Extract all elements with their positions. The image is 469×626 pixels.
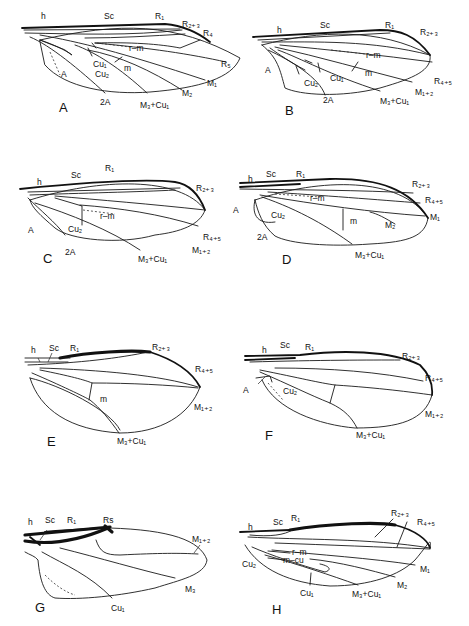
- label-h-f: h: [262, 345, 267, 355]
- label-m-d: m: [350, 216, 357, 226]
- costa-heavy-h: [290, 523, 395, 530]
- sc-vein-f: [245, 358, 295, 360]
- label-m2-a: M₂: [182, 88, 192, 98]
- label-r1-d: R₁: [296, 169, 305, 179]
- label-cu2-h: Cu₂: [242, 559, 256, 569]
- label-h-b: h: [277, 25, 282, 35]
- label-a-a: A: [61, 69, 67, 79]
- label-r1-b: R₁: [385, 20, 394, 30]
- m12-vein-g: [96, 540, 198, 555]
- r23-vein-c: [30, 190, 175, 195]
- label-sc-f: Sc: [280, 340, 291, 350]
- label-h-c: h: [37, 177, 42, 187]
- label-m3-g: M₃: [185, 584, 196, 594]
- r23-vein-f: [250, 360, 400, 362]
- label-r1-c: R₁: [105, 163, 114, 173]
- label-m12-b: M₁₊₂: [415, 87, 433, 97]
- wing-panel-h: h Sc R₁ R₂₊₃ R₄₊₅ r–m m–cu Cu₂ Cu₁ M₁ M₂…: [240, 508, 435, 617]
- panel-letter-e: E: [47, 434, 56, 449]
- label-r23-c: R₂₊₃: [196, 183, 214, 193]
- label-h-g: h: [28, 517, 33, 527]
- label-mcu-h: m–cu: [283, 555, 304, 565]
- label-rm-a: r–m: [129, 43, 144, 53]
- label-leaders-e: [38, 353, 52, 362]
- label-sc-d: Sc: [266, 169, 277, 179]
- label-m3cu1-a: M₃+Cu₁: [140, 100, 169, 110]
- panel-letter-c: C: [43, 251, 52, 266]
- label-h-d: h: [248, 174, 253, 184]
- label-m1-h: M₁: [420, 564, 430, 574]
- label-r23-e: R₂₊₃: [152, 342, 170, 352]
- label-m12-e: M₁₊₂: [194, 402, 212, 412]
- m3cu1-vein-d: [262, 197, 352, 244]
- label-cu2-c: Cu₂: [68, 224, 82, 234]
- label-cu1-h: Cu₁: [300, 588, 314, 598]
- label-rm-b: r–m: [366, 50, 381, 60]
- label-a-b: A: [265, 65, 271, 75]
- label-r1-e: R₁: [70, 343, 79, 353]
- label-m1-d: M₁: [430, 212, 440, 222]
- label-r5-a: R₅: [221, 59, 231, 69]
- label-rs-g: Rs: [103, 515, 113, 525]
- label-a-c: A: [28, 225, 34, 235]
- label-2a-b: 2A: [323, 95, 334, 105]
- wing-venation-figure: h Sc R₁ R₂₊₃ R₄ R₅ r–m m Cu₁ Cu₂ A 2A M₃…: [0, 0, 469, 626]
- r45-vein-e: [40, 368, 198, 387]
- label-cu1-a: Cu₁: [93, 59, 107, 69]
- r23-vein-a: [85, 34, 185, 38]
- r45-vein-c: [55, 196, 205, 210]
- panel-letter-h: H: [272, 602, 281, 617]
- label-m12-f: M₁₊₂: [425, 409, 443, 419]
- label-m2-h: M₂: [397, 580, 407, 590]
- label-m12-g: M₁₊₂: [192, 534, 210, 544]
- panel-letter-g: G: [35, 600, 45, 615]
- label-r45-c: R₄₊₅: [203, 232, 221, 242]
- m-crossvein-e: [89, 383, 92, 400]
- label-m2-d: M₂: [385, 220, 395, 230]
- label-r23-d: R₂₊₃: [412, 179, 430, 189]
- panel-letter-f: F: [265, 428, 273, 443]
- label-a-f: A: [243, 385, 249, 395]
- label-sc-c: Sc: [71, 170, 82, 180]
- r1-vein-a: [25, 30, 182, 34]
- label-cu1-b: Cu₁: [330, 73, 344, 83]
- panel-letter-a: A: [59, 100, 68, 115]
- r23-vein-h: [248, 537, 430, 548]
- label-sc-h: Sc: [273, 517, 284, 527]
- label-r23-f: R₂₊₃: [402, 351, 420, 361]
- label-a-d: A: [233, 205, 239, 215]
- label-rm-d: r–m: [310, 193, 325, 203]
- label-r4-a: R₄: [203, 28, 213, 38]
- label-m3cu1-f: M₃+Cu₁: [356, 430, 385, 440]
- r23-vein-d: [240, 189, 413, 193]
- label-2a-c: 2A: [65, 247, 76, 257]
- label-r23-a: R₂₊₃: [182, 19, 200, 29]
- wing-panel-e: h Sc R₁ R₂₊₃ R₄₊₅ m M₁₊₂ M₃+Cu₁ E: [25, 342, 213, 449]
- label-r23-b: R₂₊₃: [420, 27, 438, 37]
- r45-vein-f: [275, 368, 423, 381]
- label-r1-a: R₁: [155, 11, 164, 21]
- label-cu1-g: Cu₁: [111, 603, 125, 613]
- label-2a-a: 2A: [100, 97, 111, 107]
- label-r45-f: R₄₊₅: [425, 373, 443, 383]
- label-sc-a: Sc: [104, 11, 115, 21]
- label-rm-c: r–m: [100, 211, 115, 221]
- m-crossvein-f: [330, 385, 335, 403]
- wing-panel-f: h Sc R₁ R₂₊₃ R₄₊₅ A Cu₂ M₁₊₂ M₃+Cu₁ F: [243, 340, 443, 443]
- label-m1-a: M₁: [207, 78, 217, 88]
- wing-panel-b: h Sc R₁ R₂₊₃ r–m m A Cu₂ Cu₁ 2A M₃+Cu₁ M…: [253, 20, 452, 118]
- r1-vein-d: [240, 184, 300, 187]
- label-h-a: h: [41, 11, 46, 21]
- label-h-e: h: [31, 345, 36, 355]
- label-m-a: m: [124, 63, 131, 73]
- label-r23-h: R₂₊₃: [391, 508, 409, 518]
- label-2a-d: 2A: [257, 232, 268, 242]
- wing-panel-a: h Sc R₁ R₂₊₃ R₄ R₅ r–m m Cu₁ Cu₂ A 2A M₃…: [22, 11, 240, 115]
- label-r1-g: R₁: [67, 515, 76, 525]
- label-m3cu1-d: M₃+Cu₁: [355, 250, 384, 260]
- label-cu2-b: Cu₂: [304, 78, 318, 88]
- anal-fold-f: [268, 383, 283, 400]
- label-sc-b: Sc: [320, 20, 331, 30]
- label-r1-h: R₁: [291, 513, 300, 523]
- panel-letter-b: B: [285, 103, 294, 118]
